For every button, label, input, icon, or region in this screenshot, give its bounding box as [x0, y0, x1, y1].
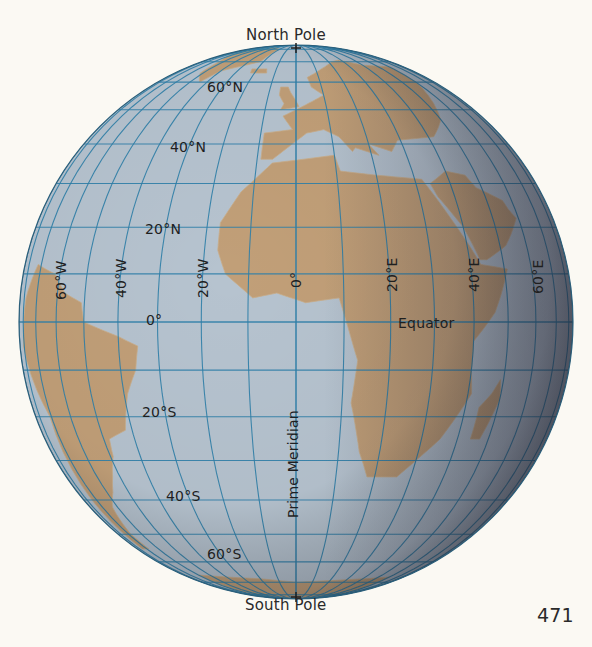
- lon-label-40w: 40°W: [114, 259, 128, 298]
- lat-label-60n: 60°N: [207, 80, 243, 94]
- lat-label-20n: 20°N: [145, 222, 181, 236]
- lon-label-20e: 20°E: [385, 258, 399, 292]
- lat-label-40n: 40°N: [170, 140, 206, 154]
- globe-figure: North Pole South Pole Equator Prime Meri…: [0, 0, 592, 647]
- lat-label-40s: 40°S: [166, 489, 201, 503]
- lat-label-20s: 20°S: [142, 405, 177, 419]
- lat-label-0: 0°: [146, 313, 162, 327]
- lat-label-60s: 60°S: [207, 547, 242, 561]
- globe: [0, 0, 592, 647]
- lon-label-0: 0°: [289, 272, 303, 288]
- lon-label-60e: 60°E: [531, 260, 545, 294]
- lon-label-40e: 40°E: [467, 258, 481, 292]
- north-pole-label: North Pole: [246, 28, 326, 43]
- south-pole-label: South Pole: [245, 598, 326, 613]
- prime-meridian-label: Prime Meridian: [286, 410, 300, 518]
- lon-label-20w: 20°W: [196, 259, 210, 298]
- page-number: 471: [537, 606, 574, 625]
- lon-label-60w: 60°W: [54, 261, 68, 300]
- equator-label: Equator: [398, 316, 454, 330]
